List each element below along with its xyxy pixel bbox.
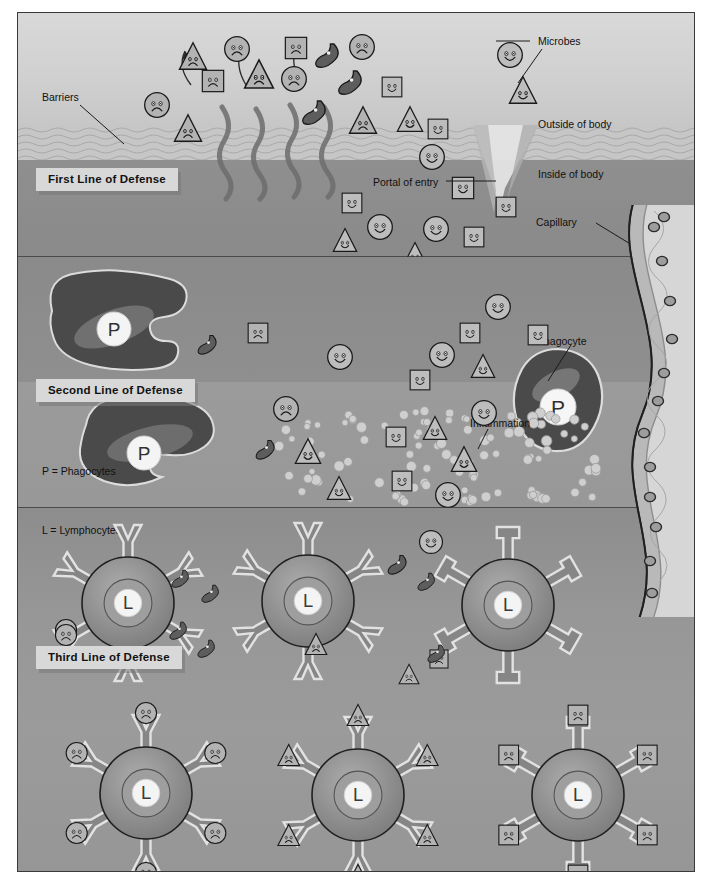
- capillary-nucleus: [647, 588, 658, 597]
- microbe-triangle-smile: [470, 353, 496, 379]
- capillary-nucleus: [665, 296, 676, 305]
- microbe-circle-sad: [348, 33, 376, 61]
- lymphocyte-letter: L: [573, 784, 583, 805]
- callout-capillary: Capillary: [536, 216, 577, 228]
- capillary-vessel: [592, 205, 695, 617]
- inflammation-bubble: [285, 471, 294, 480]
- inflammation-bubble: [535, 456, 542, 463]
- microbe-triangle-sad: [398, 663, 420, 685]
- inflammation-bubble: [412, 409, 419, 416]
- inflammation-bubble: [551, 415, 560, 424]
- inflammation-bubble: [529, 418, 539, 428]
- lymphocyte-letter: L: [123, 592, 133, 613]
- bound-microbe-triangle: [347, 704, 369, 725]
- inflammation-bubble: [356, 422, 366, 432]
- inflammation-bubble: [304, 474, 313, 483]
- bound-microbe-square: [637, 745, 657, 765]
- lymphocyte-L2: L: [200, 493, 416, 709]
- bound-microbe-circle: [135, 702, 156, 723]
- microbe-circle-smile: [366, 213, 394, 241]
- microbe-square-smile: [384, 425, 408, 449]
- inflammation-bubble: [523, 455, 532, 464]
- capillary-nucleus: [659, 212, 670, 221]
- inflammation-bubble: [581, 423, 588, 430]
- microbe-triangle-sad: [243, 58, 275, 90]
- inflammation-bubble: [493, 450, 500, 457]
- microbe-square-smile: [526, 323, 550, 347]
- phagocyte-letter-2: P: [138, 443, 151, 464]
- microbe-triangle-smile: [396, 105, 424, 133]
- bound-microbe-circle: [205, 822, 226, 843]
- microbe-circle-smile: [496, 41, 524, 69]
- microbe-comma-sad: [416, 571, 438, 593]
- microbe-triangle-sad: [304, 632, 328, 656]
- inflammation-bubble: [561, 430, 568, 437]
- lymphocyte-receptor: [115, 525, 142, 561]
- inflammation-bubble: [525, 438, 535, 448]
- inflammation-bubble: [314, 422, 320, 428]
- lymphocyte-letter: L: [353, 784, 363, 805]
- microbe-triangle-smile: [332, 227, 358, 253]
- microbe-square-smile: [450, 175, 476, 201]
- lymphocyte-receptor: [497, 527, 520, 563]
- lymphocyte-receptor: [497, 647, 520, 683]
- lymphocyte-L5: L: [250, 687, 466, 872]
- bound-microbe-square: [568, 865, 588, 872]
- microbe-circle-smile: [484, 293, 512, 321]
- microbe-comma-sad: [254, 438, 278, 462]
- capillary-nucleus: [659, 368, 670, 377]
- microbe-comma-sad: [170, 568, 192, 590]
- microbe-triangle-sad: [348, 105, 378, 135]
- microbe-circle-smile: [418, 529, 444, 555]
- bound-microbe-square: [568, 705, 588, 725]
- microbe-comma-sad: [426, 643, 448, 665]
- capillary-nucleus: [645, 462, 656, 471]
- microbe-circle-smile: [428, 341, 456, 369]
- inflammation-bubble: [480, 451, 489, 460]
- capillary-nucleus: [645, 492, 656, 501]
- inflammation-bubble: [304, 423, 310, 429]
- inflammation-bubble: [543, 446, 551, 454]
- inflammation-bubble: [487, 434, 495, 442]
- inflammation-bubble: [406, 451, 414, 459]
- phagocyte-letter-1: P: [108, 319, 121, 340]
- microbe-comma-sad: [313, 41, 343, 71]
- inflammation-bubble: [423, 464, 431, 472]
- microbe-square-smile: [494, 195, 518, 219]
- microbe-square-smile: [462, 225, 486, 249]
- inflammation-bubble: [415, 442, 422, 449]
- inflammation-bubble: [344, 457, 353, 466]
- microbe-comma-sad: [336, 68, 366, 98]
- callout-outside-of-body: Outside of body: [538, 118, 612, 130]
- inflammation-bubble: [463, 416, 470, 423]
- lymphocyte-L4: L: [38, 685, 254, 872]
- microbe-circle-smile: [418, 143, 446, 171]
- microbe-circle-sad: [143, 91, 171, 119]
- inflammation-bubble: [399, 410, 408, 419]
- microbe-triangle-smile: [294, 437, 322, 465]
- microbe-circle-sad: [280, 65, 308, 93]
- inflammation-bubble: [375, 478, 385, 488]
- microbe-square-sad: [246, 321, 270, 345]
- inflammation-bubble: [461, 487, 468, 494]
- capillary-nucleus: [645, 556, 656, 565]
- first-line-of-defense-label: First Line of Defense: [36, 168, 178, 191]
- microbe-square-smile: [408, 368, 432, 392]
- inflammation-bubble: [571, 488, 580, 497]
- lymphocyte-letter: L: [503, 594, 513, 615]
- inflammation-bubble: [570, 415, 579, 424]
- callout-portal-of-entry: Portal of entry: [373, 176, 438, 188]
- bound-microbe-circle: [66, 822, 87, 843]
- inflammation-bubble: [541, 436, 552, 447]
- callout-barriers: Barriers: [42, 91, 79, 103]
- capillary-nucleus: [657, 256, 668, 265]
- microbe-circle-smile: [422, 215, 450, 243]
- figure-canvas: Barriers Microbes Outside of body Inside…: [0, 0, 712, 884]
- microbe-square-smile: [390, 469, 414, 493]
- microbe-triangle-smile: [422, 415, 448, 441]
- capillary-nucleus: [651, 522, 662, 531]
- capillary-nucleus: [653, 396, 664, 405]
- microbe-square-smile: [380, 75, 404, 99]
- callout-inside-of-body: Inside of body: [538, 168, 603, 180]
- lymphocyte-L6: L: [470, 687, 686, 872]
